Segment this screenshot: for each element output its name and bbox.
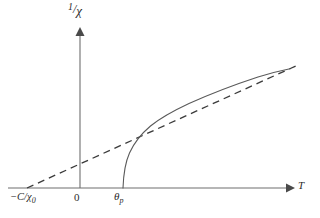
x-axis-label: T <box>298 180 304 191</box>
neg-c-over-chi0-subscript: 0 <box>32 196 36 205</box>
plot-canvas <box>0 0 320 218</box>
figure-container: 1/χ T 0 θp −C/χ0 <box>0 0 320 218</box>
y-axis-label-denominator: χ <box>76 3 82 18</box>
neg-c-over-chi0-tick-label: −C/χ0 <box>10 192 36 203</box>
y-axis-label-numerator: 1 <box>68 1 73 12</box>
neg-c-over-chi0-main: −C/χ <box>10 191 32 202</box>
y-axis-arrowhead <box>76 27 85 36</box>
dashed-asymptote-line <box>27 65 298 188</box>
theta-p-tick-label: θp <box>114 191 123 202</box>
solid-inverse-susceptibility-curve <box>123 69 290 188</box>
y-axis-label: 1/χ <box>68 2 82 15</box>
theta-subscript: p <box>119 196 123 205</box>
x-axis-arrowhead <box>286 184 295 193</box>
origin-tick-label: 0 <box>74 192 80 203</box>
